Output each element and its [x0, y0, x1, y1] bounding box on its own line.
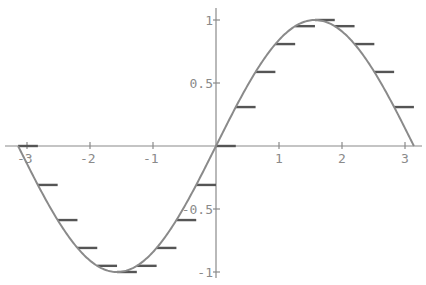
y-tick-label: -1	[197, 265, 213, 280]
x-tick-label: -1	[143, 151, 159, 166]
x-tick-label: 1	[275, 151, 283, 166]
y-tick: 1	[205, 13, 220, 28]
x-tick-label: -2	[80, 151, 96, 166]
y-tick-label: 1	[205, 13, 213, 28]
y-tick: -0.5	[182, 202, 220, 217]
y-tick: -1	[197, 265, 220, 280]
sine-step-chart: -3-2-1123 10.5-0.5-1	[0, 0, 426, 285]
y-tick-label: 0.5	[190, 76, 213, 91]
x-tick-label: 3	[401, 151, 409, 166]
x-tick-label: 2	[338, 151, 346, 166]
